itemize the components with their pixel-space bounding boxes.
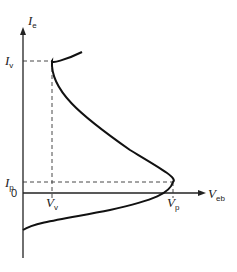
x-axis-arrow-icon <box>198 190 206 196</box>
y-axis-label: Ie <box>27 13 37 30</box>
peak-voltage-label: Vp <box>167 195 180 212</box>
peak-current-label: Ip <box>4 175 14 192</box>
valley-current-label: Iv <box>4 53 13 70</box>
characteristic-diagram: Ie Veb 0 Iv Vv Ip Vp <box>0 0 237 272</box>
y-axis-arrow-icon <box>20 27 26 35</box>
valley-voltage-label: Vv <box>46 195 58 212</box>
x-axis-label: Veb <box>208 186 225 203</box>
